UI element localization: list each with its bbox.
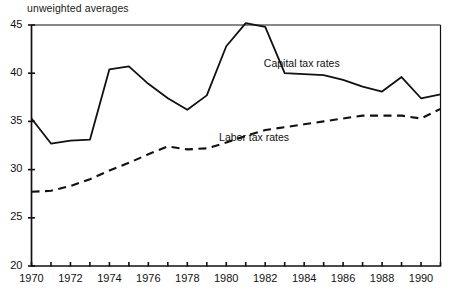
y-axis-tick-label: 20 (1, 259, 23, 271)
chart-plot-area (0, 0, 453, 296)
x-axis-tick-label: 1976 (128, 272, 168, 284)
x-axis-tick-label: 1984 (284, 272, 324, 284)
chart-series-lines (32, 23, 441, 192)
x-axis-tick-label: 1978 (167, 272, 207, 284)
series-annotation-label: Capital tax rates (264, 57, 340, 69)
x-axis-tick-label: 1980 (206, 272, 246, 284)
y-axis-tick-label: 45 (1, 18, 23, 30)
x-axis-tick-label: 1970 (12, 272, 52, 284)
x-axis-tick-label: 1986 (323, 272, 363, 284)
y-axis-tick-label: 35 (1, 114, 23, 126)
series-annotation-label: Labor tax rates (219, 131, 289, 143)
y-axis-tick-label: 25 (1, 210, 23, 222)
x-axis-tick-label: 1988 (362, 272, 402, 284)
x-axis-tick-label: 1982 (245, 272, 285, 284)
chart-container: unweighted averages 202530354045 1970197… (0, 0, 453, 296)
x-axis-tick-label: 1972 (50, 272, 90, 284)
x-axis-tick-label: 1974 (89, 272, 129, 284)
chart-tick-marks (28, 25, 441, 267)
y-axis-tick-label: 30 (1, 162, 23, 174)
y-axis-tick-label: 40 (1, 66, 23, 78)
x-axis-tick-label: 1990 (401, 272, 441, 284)
chart-axes (32, 25, 441, 266)
